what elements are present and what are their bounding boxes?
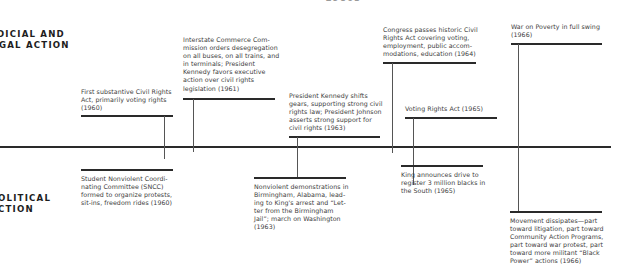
section-label-line: GAL ACTION	[0, 40, 70, 51]
event-text-line: Student Nonviolent Coordi-	[81, 175, 181, 183]
event-connector	[518, 44, 519, 212]
event-text-line: President Kennedy shifts	[289, 92, 389, 100]
event-text-line: mission orders desegregation	[183, 44, 283, 52]
section-label-line: OLITICAL	[0, 193, 51, 204]
event-text-line: formed to organize protests,	[81, 191, 181, 199]
event-text-line: Community Action Programs,	[510, 233, 615, 241]
timeline-axis	[0, 146, 611, 148]
event-text-line: nating Committee (SNCC)	[81, 183, 181, 191]
event-1965-king-drive: King announces drive to register 3 milli…	[401, 171, 501, 195]
event-text-line: part toward war protest, part	[510, 241, 615, 249]
event-text-line: Movement dissipates—part	[510, 217, 615, 225]
event-text-line: (1960)	[81, 104, 181, 112]
event-bar	[510, 211, 602, 213]
event-text-line: Jail”; march on Washington	[254, 215, 354, 223]
event-text-line: rights law; President Johnson	[289, 108, 389, 116]
event-text-line: War on Poverty in full swing	[511, 23, 611, 31]
section-label-line: CTION	[0, 204, 51, 215]
section-label-line: DICIAL AND	[0, 29, 70, 40]
event-text-line: civil rights (1963)	[289, 124, 389, 132]
event-text-line: on all buses, on all trains, and	[183, 52, 283, 60]
event-bar	[183, 98, 275, 100]
event-connector	[392, 63, 393, 153]
event-bar	[511, 43, 602, 45]
event-1963-birmingham: Nonviolent demonstrations in Birmingham,…	[254, 183, 354, 232]
section-label-judicial-legal: DICIAL AND GAL ACTION	[0, 29, 70, 51]
event-1966-war-on-poverty: War on Poverty in full swing (1966)	[511, 23, 611, 39]
event-text-line: modations, education (1964)	[383, 50, 483, 58]
event-text-line: toward litigation, part toward	[510, 225, 615, 233]
event-text-line: Rights Act covering voting,	[383, 34, 483, 42]
event-bar	[289, 136, 380, 138]
event-text-line: action over civil rights	[183, 76, 283, 84]
event-1965-voting-rights-act: Voting Rights Act (1965)	[405, 105, 505, 113]
event-1966-movement-dissipates: Movement dissipates—part toward litigati…	[510, 217, 615, 266]
event-bar	[401, 165, 483, 167]
event-text-line: ter from the Birmingham	[254, 207, 354, 215]
section-label-political-action: OLITICAL CTION	[0, 193, 51, 215]
event-text-line: legislation (1961)	[183, 85, 283, 93]
event-text-line: Birmingham, Alabama, lead-	[254, 191, 354, 199]
event-connector	[297, 137, 298, 177]
event-1961-interstate-commerce: Interstate Commerce Com- mission orders …	[183, 36, 283, 93]
event-text-line: Nonviolent demonstrations in	[254, 183, 354, 191]
event-1963-kennedy-shifts: President Kennedy shifts gears, supporti…	[289, 92, 389, 132]
event-text-line: toward more militant “Black	[510, 249, 615, 257]
event-1964-civil-rights-act: Congress passes historic Civil Rights Ac…	[383, 26, 483, 58]
event-bar	[383, 62, 476, 64]
event-text-line: ing to King's arrest and “Let-	[254, 199, 354, 207]
event-connector	[164, 116, 165, 159]
event-text-line: sit-ins, freedom rides (1960)	[81, 199, 181, 207]
event-text-line: Voting Rights Act (1965)	[405, 105, 505, 113]
event-text-line: asserts strong support for	[289, 116, 389, 124]
period-label: 1960s	[318, 0, 368, 3]
event-text-line: gears, supporting strong civil	[289, 100, 389, 108]
event-text-line: First substantive Civil Rights	[81, 88, 181, 96]
event-text-line: Congress passes historic Civil	[383, 26, 483, 34]
event-text-line: King announces drive to	[401, 171, 501, 179]
event-1960-sncc: Student Nonviolent Coordi- nating Commit…	[81, 175, 181, 207]
event-connector	[193, 99, 194, 152]
event-text-line: the South (1965)	[401, 187, 501, 195]
event-text-line: (1966)	[511, 31, 611, 39]
event-text-line: Interstate Commerce Com-	[183, 36, 283, 44]
event-bar	[254, 177, 346, 179]
event-bar	[81, 169, 173, 171]
event-text-line: Act, primarily voting rights	[81, 96, 181, 104]
event-bar	[81, 115, 173, 117]
event-text-line: register 3 million blacks in	[401, 179, 501, 187]
event-bar	[405, 117, 497, 119]
event-text-line: employment, public accom-	[383, 42, 483, 50]
event-text-line: Kennedy favors executive	[183, 68, 283, 76]
event-text-line: Power” actions (1966)	[510, 257, 615, 265]
event-text-line: (1963)	[254, 223, 354, 231]
event-text-line: in terminals; President	[183, 60, 283, 68]
event-1960-civil-rights-act: First substantive Civil Rights Act, prim…	[81, 88, 181, 112]
